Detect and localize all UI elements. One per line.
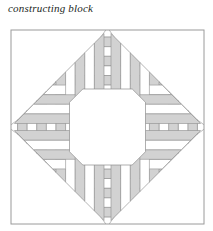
center-octagon-group (70, 89, 146, 165)
quilt-block-svg (0, 0, 213, 231)
center-octagon-patch (70, 89, 146, 165)
figure-page: constructing block (0, 0, 213, 231)
quilt-block-figure (0, 0, 213, 231)
